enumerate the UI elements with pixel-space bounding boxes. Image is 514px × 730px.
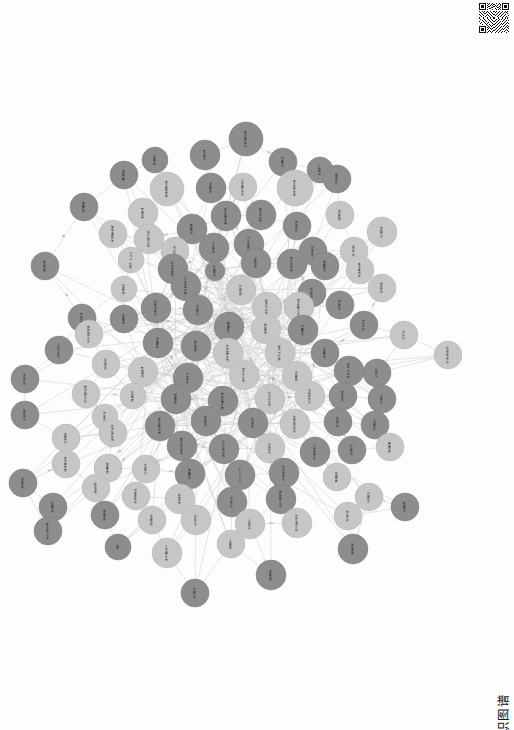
graph-node[interactable]: 设备完整性 [122, 482, 150, 510]
graph-node-label: 泵体故障 [156, 336, 159, 349]
graph-node[interactable]: 维护保养不足 [72, 380, 100, 408]
graph-node[interactable]: 持续改进 [181, 579, 209, 607]
graph-node[interactable]: 承包商管理 [52, 450, 80, 478]
graph-node[interactable]: 监督检查 [256, 560, 286, 590]
graph-node[interactable]: 液氮保护 [326, 291, 354, 319]
graph-node[interactable]: 应急预案 [142, 147, 168, 173]
graph-node-label: 消防系统失效 [147, 229, 150, 248]
graph-node[interactable]: 管道泄漏 [128, 198, 158, 228]
graph-node[interactable]: 冷量损失 [288, 315, 318, 345]
graph-node[interactable]: 安全监控 [181, 331, 211, 361]
graph-node[interactable]: 安全文化薄弱 [167, 431, 197, 461]
graph-node[interactable]: 安全阀失效 [246, 200, 276, 230]
graph-node[interactable]: 雷电天气 [323, 165, 351, 193]
qr-code[interactable] [479, 3, 509, 33]
graph-node[interactable]: 储罐超压 [311, 252, 339, 280]
graph-node-label: 人员违章 [318, 163, 321, 176]
graph-node[interactable]: 储罐失稳 [161, 384, 191, 414]
graph-node[interactable]: 管理漏洞 [128, 357, 158, 387]
graph-node[interactable]: 低温液体泄漏 [211, 201, 241, 231]
graph-node[interactable]: 信息沟通不畅 [282, 508, 312, 538]
graph-node[interactable]: 培训考核 [91, 501, 119, 529]
graph-node[interactable]: 静电积聚 [283, 212, 311, 240]
graph-node[interactable]: 检测仪表失效 [99, 419, 127, 447]
graph-node[interactable]: 液位计失效 [229, 360, 259, 390]
graph-node[interactable]: 罐体变形 [214, 312, 244, 342]
graph-node[interactable]: 低温冻伤 [238, 408, 268, 438]
graph-node[interactable]: 防爆设施 [226, 275, 256, 305]
graph-node[interactable]: 储存温度异常 [99, 220, 127, 248]
graph-node[interactable]: 人员资质不符 [152, 538, 182, 568]
graph-node[interactable]: 安全培训 [190, 140, 220, 170]
graph-node[interactable]: 防护不当 [181, 505, 211, 535]
graph-node[interactable]: 闪蒸现象 [311, 339, 339, 367]
graph-node[interactable]: 装卸作业 [367, 217, 397, 247]
graph-node[interactable]: 人员伤亡 [368, 385, 396, 413]
graph-node[interactable]: 泵体故障 [143, 328, 173, 358]
graph-node[interactable]: 液位超限 [326, 201, 354, 229]
graph-node[interactable]: 电气火花 [350, 311, 378, 339]
graph-node[interactable]: 喷射火 [363, 359, 391, 387]
graph-node[interactable]: 监管缺位 [52, 424, 80, 452]
graph-node[interactable]: 多米诺效应 [300, 437, 330, 467]
graph-node[interactable]: 灭火系统失效 [209, 434, 239, 464]
graph-node[interactable]: 巡检制度 [120, 383, 146, 409]
graph-node[interactable]: 声誉损害 [355, 483, 383, 511]
graph-node[interactable]: 冲击波伤害 [269, 458, 299, 488]
graph-node[interactable]: 责任落实 [338, 534, 368, 564]
graph-node[interactable]: 蒸气云爆炸 [334, 356, 364, 386]
graph-node[interactable]: 人员操作失误 [229, 173, 257, 201]
graph-node[interactable]: 人员素质 [217, 530, 245, 558]
graph-node[interactable]: 应急疏散 [323, 463, 351, 491]
graph-node[interactable]: 火源管理 [111, 276, 137, 302]
graph-node[interactable]: 应急演练 [110, 305, 138, 333]
graph-node[interactable]: 安全防护装置 [277, 170, 313, 206]
graph-edge [270, 399, 271, 575]
graph-node[interactable]: 操作失误 [11, 401, 39, 429]
graph-node[interactable]: 操作规程缺失 [229, 122, 263, 156]
graph-node[interactable]: 冷辐射伤害 [295, 381, 325, 411]
graph-node[interactable]: 风险评估 [92, 350, 120, 378]
graph-node[interactable]: 雷击防护 [368, 274, 396, 302]
graph-node[interactable]: 设计缺陷 [11, 365, 39, 393]
graph-node[interactable]: 超装溢流 [191, 406, 221, 436]
graph-node[interactable]: 装置停车 [9, 469, 37, 497]
graph-node[interactable]: 远程孤立节点 [434, 341, 462, 369]
graph-node-label: 救援能力不足 [279, 489, 282, 508]
knowledge-graph-canvas[interactable]: 导致导致导致导致导致导致导致导致导致导致导致导致导致导致导致导致导致导致导致导致… [0, 18, 462, 718]
graph-node[interactable]: 隐患排查 [31, 252, 59, 280]
graph-node[interactable]: 紧急切断阀 [141, 293, 171, 323]
graph-node[interactable]: 应急物资 [39, 493, 67, 521]
graph-node[interactable]: 制度执行 [391, 493, 419, 521]
graph-node[interactable]: 泄漏检测 [196, 173, 226, 203]
node-layer[interactable]: 操作规程缺失安全培训应急预案设备老化人员违章监测预警安全管理制度泄漏检测人员操作… [9, 122, 462, 607]
graph-node[interactable]: 低温脆化 [183, 295, 213, 325]
graph-node[interactable]: 制冷剂泄漏 [277, 249, 307, 279]
graph-node[interactable]: 氧含量异常 [346, 256, 374, 284]
graph-node[interactable]: 环境污染 [324, 408, 352, 436]
graph-node[interactable]: 定期检验 [138, 506, 166, 534]
graph-node[interactable]: 操作培训不足 [75, 320, 103, 348]
graph-node[interactable]: 恢复重建 [334, 502, 362, 530]
graph-node[interactable]: 隐患治理 [82, 474, 110, 502]
graph-node[interactable]: 社会影响 [338, 436, 366, 464]
graph-node[interactable]: 池火灾 [390, 321, 418, 349]
graph-node[interactable]: 安全投入不足 [34, 517, 62, 545]
graph-node-label: 应急物资 [51, 500, 54, 513]
graph-node[interactable]: 压力异常 [199, 233, 229, 263]
graph-node[interactable]: BOG 处理 [118, 247, 144, 273]
graph-node[interactable]: 违规 [105, 534, 131, 560]
graph-node[interactable]: 人因可靠性 [45, 336, 73, 364]
graph-node[interactable]: 外部撞击 [205, 261, 225, 281]
knowledge-graph-figure[interactable]: 导致导致导致导致导致导致导致导致导致导致导致导致导致导致导致导致导致导致导致导致… [0, 18, 462, 718]
graph-node[interactable]: 监测预警 [110, 161, 138, 189]
graph-node[interactable]: 接地失效 [241, 248, 271, 278]
graph-node[interactable]: 标准规范 [132, 455, 160, 483]
graph-node[interactable]: 应急响应延误 [280, 409, 310, 439]
graph-node[interactable]: BLEVE [225, 460, 255, 490]
graph-node[interactable]: 储罐腐蚀 [70, 193, 98, 221]
graph-node[interactable]: 安全管理制度 [150, 172, 184, 206]
graph-node[interactable]: 事故调查 [376, 433, 404, 461]
graph-node-label: 应急演练 [122, 312, 125, 325]
graph-node[interactable]: 窒息风险 [329, 382, 357, 410]
